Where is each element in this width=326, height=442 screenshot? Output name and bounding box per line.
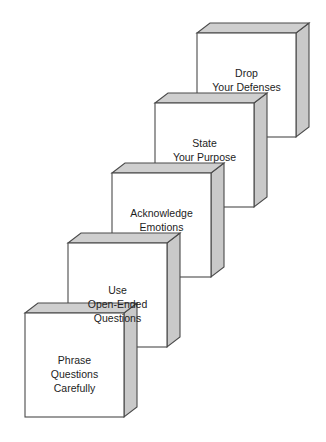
block-side-face bbox=[296, 23, 309, 137]
block-side-face bbox=[211, 163, 224, 277]
block-top-face bbox=[197, 23, 309, 33]
step-label-line: Your Purpose bbox=[173, 151, 236, 163]
step-label-line: Your Defenses bbox=[212, 81, 281, 93]
step-label-line: Acknowledge bbox=[130, 207, 193, 219]
step-label-line: Carefully bbox=[54, 382, 96, 394]
step-label-line: Emotions bbox=[140, 221, 184, 233]
step-label-phrase-questions-carefully: PhraseQuestionsCarefully bbox=[51, 354, 98, 394]
staircase-diagram: DropYour DefensesStateYour PurposeAcknow… bbox=[0, 0, 326, 442]
step-label-line: Open-Ended bbox=[88, 298, 148, 310]
block-side-face bbox=[254, 93, 267, 207]
diagram-canvas: DropYour DefensesStateYour PurposeAcknow… bbox=[0, 0, 326, 442]
block-top-face bbox=[68, 233, 180, 243]
step-label-line: Questions bbox=[51, 368, 98, 380]
block-top-face bbox=[155, 93, 267, 103]
step-label-line: Drop bbox=[235, 67, 258, 79]
scan-artifact bbox=[143, 404, 145, 413]
block-side-face bbox=[167, 233, 180, 347]
step-label-line: State bbox=[192, 137, 217, 149]
block-top-face bbox=[112, 163, 224, 173]
step-label-line: Use bbox=[108, 284, 127, 296]
step-label-line: Phrase bbox=[58, 354, 91, 366]
step-label-line: Questions bbox=[94, 312, 141, 324]
